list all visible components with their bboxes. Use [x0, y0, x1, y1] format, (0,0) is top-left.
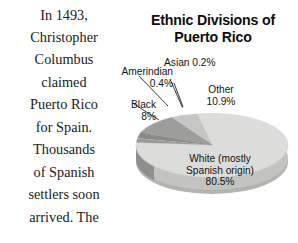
slice-label-amerindian-value: 0.4% [93, 78, 173, 90]
slice-label-other-value: 10.9% [190, 96, 252, 108]
slice-label-asian-text: Asian 0.2% [164, 57, 216, 68]
slice-label-white-value: 80.5% [164, 176, 276, 188]
slice-label-asian: Asian 0.2% [164, 57, 248, 69]
pie-slice-white-right [197, 113, 288, 145]
article-line: Thousands [0, 138, 128, 160]
pie-chart-figure: Ethnic Divisions of Puerto Rico [128, 0, 298, 243]
leader-line-asian [174, 83, 183, 107]
article-line: Christopher [0, 26, 128, 48]
article-line: In 1493, [0, 4, 128, 26]
slice-label-other: Other 10.9% [190, 84, 252, 107]
slice-label-black: Black 8% [94, 99, 156, 122]
slice-label-white: White (mostly Spanish origin) 80.5% [164, 153, 276, 188]
figure-page: In 1493, Christopher Columbus claimed Pu… [0, 0, 298, 243]
slice-label-white-line-2: Spanish origin) [164, 165, 276, 177]
slice-label-white-line-1: White (mostly [189, 153, 251, 164]
slice-label-black-value: 8% [94, 111, 156, 123]
article-line: arrived. The [0, 206, 128, 228]
slice-label-amerindian: Amerindian 0.4% [93, 66, 173, 89]
article-line: settlers soon [0, 183, 128, 205]
slice-label-black-name: Black [131, 99, 156, 110]
slice-label-other-name: Other [208, 84, 233, 95]
article-line: of Spanish [0, 161, 128, 183]
